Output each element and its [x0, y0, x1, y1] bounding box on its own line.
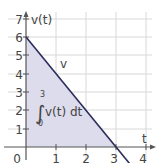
- line-label: v: [60, 57, 67, 71]
- y-tick-5: 5: [15, 49, 23, 63]
- x-axis-label: t: [142, 132, 147, 146]
- y-axis-arrow-icon: [24, 11, 29, 17]
- x-tick-0: 0: [13, 152, 21, 163]
- y-tick-3: 3: [15, 86, 23, 100]
- x-tick-1: 1: [52, 152, 60, 163]
- y-tick-4: 4: [15, 68, 23, 82]
- x-tick-4: 4: [139, 152, 147, 163]
- velocity-chart: 7 6 5 4 3 2 1 0 1 2 3 4 v(t) t v 3 ∫ v(t…: [0, 0, 160, 163]
- integral-lower-limit: 0: [38, 119, 43, 128]
- x-axis-arrow-icon: [150, 145, 156, 150]
- x-tick-2: 2: [82, 152, 90, 163]
- y-tick-6: 6: [15, 31, 23, 45]
- y-tick-1: 1: [15, 123, 23, 137]
- y-tick-2: 2: [15, 104, 23, 118]
- integral-body: v(t) dt: [45, 105, 83, 119]
- x-tick-3: 3: [110, 152, 118, 163]
- y-tick-7: 7: [15, 13, 23, 27]
- y-axis-label: v(t): [31, 13, 52, 27]
- integral-upper-limit: 3: [40, 90, 45, 99]
